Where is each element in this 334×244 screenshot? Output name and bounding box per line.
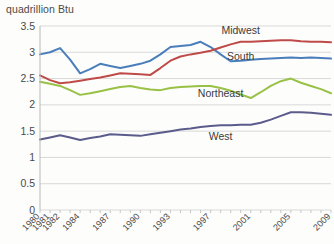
x-tick-label: 1990: [121, 211, 142, 232]
data-series-group: [40, 40, 331, 140]
series-line-northeast: [40, 79, 331, 98]
x-tick-label: 1987: [90, 211, 111, 232]
x-tick-label: 1997: [191, 211, 212, 232]
x-tick-label: 2001: [231, 211, 252, 232]
series-label-south: South: [227, 50, 255, 62]
chart-container: quadrillion Btu 3.532.521.510.50 1980198…: [0, 0, 334, 244]
series-line-midwest: [40, 42, 331, 74]
series-label-west: West: [209, 130, 233, 142]
line-chart-plot: 3.532.521.510.50 19801981198219841987199…: [0, 0, 334, 244]
y-tick-label: 3: [29, 46, 35, 58]
y-tick-label: 1.5: [20, 125, 35, 137]
y-tick-label: 3.5: [20, 20, 35, 32]
series-label-midwest: Midwest: [221, 24, 260, 36]
y-tick-label: 2.5: [20, 72, 35, 84]
series-label-northeast: Northeast: [198, 87, 244, 99]
x-tick-label: 2009: [311, 211, 332, 232]
x-tick-label: 1993: [151, 211, 172, 232]
x-axis-tick-labels: 1980198119821984198719901993199720012005…: [20, 211, 332, 232]
series-line-south: [40, 40, 331, 83]
series-line-west: [40, 112, 331, 140]
y-tick-label: 2: [29, 98, 35, 110]
x-tick-label: 2005: [271, 211, 292, 232]
y-tick-label: 0.5: [20, 177, 35, 189]
y-tick-label: 1: [29, 151, 35, 163]
gridlines-group: [40, 26, 331, 210]
y-axis-tick-labels: 3.532.521.510.50: [20, 20, 35, 216]
x-tick-label: 1984: [60, 211, 81, 232]
